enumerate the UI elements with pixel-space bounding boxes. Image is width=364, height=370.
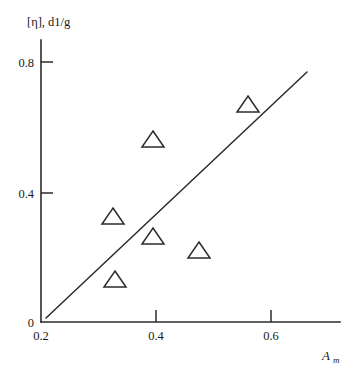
x-axis-title-subscript: m <box>333 355 340 365</box>
scatter-plot-canvas: 0.8 0.4 0 0.2 0.4 0.6 [η], d1/g A m <box>0 0 364 370</box>
x-axis-title: A m <box>321 348 340 365</box>
y-tick-label-0: 0.8 <box>18 56 34 70</box>
data-point-marker <box>102 208 124 224</box>
y-tick-label-1: 0.4 <box>18 187 34 201</box>
y-axis-ticks <box>41 62 53 193</box>
x-tick-label-2: 0.6 <box>263 329 279 343</box>
data-point-marker <box>237 96 259 112</box>
data-point-marker <box>142 131 164 147</box>
x-tick-label-1: 0.4 <box>148 329 164 343</box>
data-point-marker <box>142 228 164 244</box>
x-axis-title-main: A <box>321 348 330 363</box>
x-axis-ticks <box>156 310 271 322</box>
y-axis-title: [η], d1/g <box>27 15 71 29</box>
data-point-marker <box>188 242 210 258</box>
trend-line <box>46 72 307 318</box>
data-point-marker <box>104 271 126 287</box>
x-tick-label-0: 0.2 <box>33 329 49 343</box>
chart-figure: 0.8 0.4 0 0.2 0.4 0.6 [η], d1/g A m <box>0 0 364 370</box>
y-tick-label-2: 0 <box>28 316 34 330</box>
